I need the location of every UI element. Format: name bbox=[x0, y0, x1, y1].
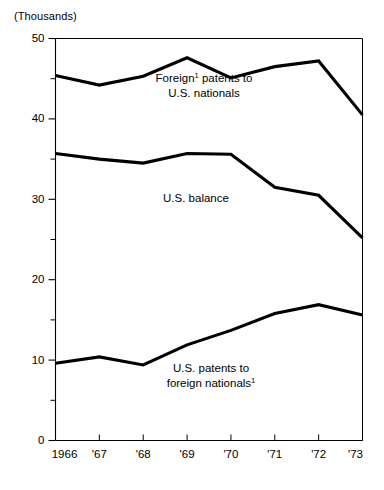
x-tick-label: '67 bbox=[92, 448, 107, 460]
x-tick-label: '68 bbox=[136, 448, 151, 460]
x-axis-ticks bbox=[99, 435, 362, 441]
annotation-balance-line1: U.S. balance bbox=[163, 192, 229, 204]
annotation-uspatents-line1: U.S. patents to bbox=[173, 362, 249, 374]
y-tick-label: 10 bbox=[32, 354, 45, 366]
x-axis-tick-labels: 1966'67'68'69'70'71'72'73 bbox=[52, 448, 363, 460]
annotation-foreign-line1: Foreign1 patents to bbox=[156, 71, 253, 84]
patent-trends-chart: (Thousands) 01020304050 1966'67'68'69'70… bbox=[0, 0, 384, 490]
x-tick-label: '70 bbox=[223, 448, 238, 460]
y-tick-label: 20 bbox=[32, 273, 45, 285]
x-tick-label: '72 bbox=[311, 448, 326, 460]
y-axis-tick-labels: 01020304050 bbox=[32, 32, 45, 446]
y-axis-ticks bbox=[49, 39, 56, 441]
data-series-lines bbox=[56, 58, 363, 365]
y-tick-label: 50 bbox=[32, 32, 45, 44]
x-tick-label: '69 bbox=[180, 448, 195, 460]
series-line-2 bbox=[56, 305, 363, 365]
annotation-foreign-line2: U.S. nationals bbox=[168, 87, 240, 99]
annotation-uspatents-line2: foreign nationals1 bbox=[167, 376, 256, 389]
chart-plot-area: 01020304050 1966'67'68'69'70'71'72'73 Fo… bbox=[0, 0, 384, 490]
x-tick-label: 1966 bbox=[52, 448, 78, 460]
y-tick-label: 0 bbox=[38, 434, 44, 446]
y-tick-label: 30 bbox=[32, 193, 45, 205]
x-tick-label: '73 bbox=[348, 448, 363, 460]
series-annotation-us-balance: U.S. balance bbox=[163, 192, 229, 204]
y-tick-label: 40 bbox=[32, 112, 45, 124]
series-annotation-foreign-patents: Foreign1 patents to U.S. nationals bbox=[156, 71, 253, 99]
series-annotation-us-patents: U.S. patents to foreign nationals1 bbox=[167, 362, 256, 389]
x-tick-label: '71 bbox=[267, 448, 282, 460]
